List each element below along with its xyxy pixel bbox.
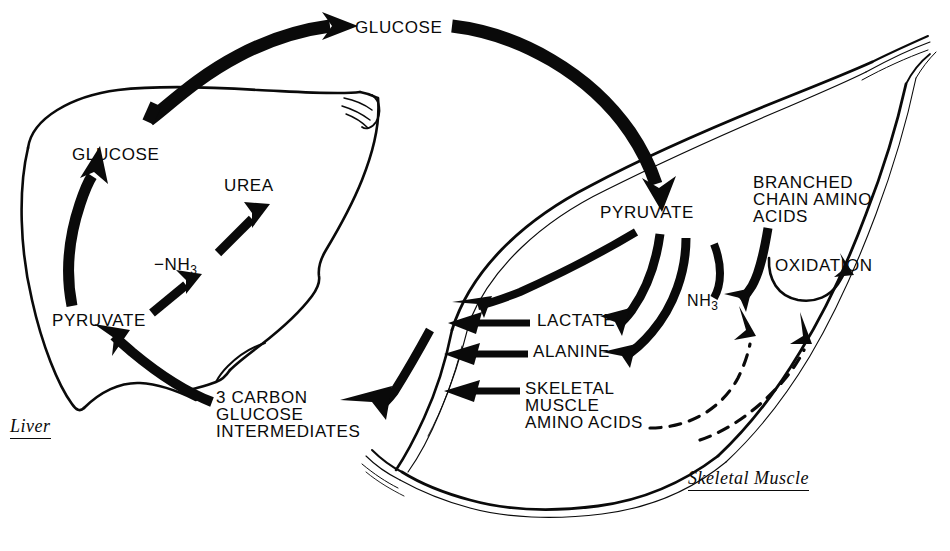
nh3-text: NH [687, 292, 711, 309]
label-liver-glucose: GLUCOSE [72, 146, 159, 164]
arrow-dashed-skeletal-aa-to-oxidation [700, 312, 812, 440]
label-minus-nh3: −NH3 [154, 256, 197, 280]
label-lactate: LACTATE [537, 312, 615, 330]
bcaa-line-3: ACIDS [753, 207, 808, 226]
arrow-liver-pyruvate-to-glucose [69, 146, 108, 306]
organ-label-skeletal-muscle: Skeletal Muscle [688, 468, 809, 491]
label-nh3: NH3 [687, 292, 718, 316]
label-urea: UREA [224, 177, 274, 195]
arrow-minus-nh3-to-urea [218, 202, 270, 253]
metabolic-diagram: GLUCOSE GLUCOSE UREA −NH3 PYRUVATE 3 CAR… [0, 0, 950, 551]
arrow-bcaa-to-nh3 [724, 228, 768, 312]
arrow-export-lactate [448, 312, 530, 334]
nh3-subscript: 3 [711, 299, 718, 313]
arrow-liver-glucose-to-blood [148, 12, 358, 122]
label-branched-chain-amino-acids: BRANCHEDCHAIN AMINOACIDS [753, 174, 872, 225]
minus-nh3-text: −NH [154, 255, 190, 274]
label-liver-pyruvate: PYRUVATE [52, 312, 146, 330]
label-muscle-pyruvate: PYRUVATE [600, 204, 694, 222]
arrow-blood-glucose-to-muscle-pyruvate [452, 26, 676, 212]
label-alanine: ALANINE [533, 343, 610, 361]
minus-nh3-subscript: 3 [190, 263, 197, 277]
label-blood-glucose: GLUCOSE [355, 19, 442, 37]
label-skeletal-muscle-amino-acids: SKELETALMUSCLEAMINO ACIDS [525, 380, 643, 431]
organ-label-liver: Liver [10, 416, 51, 439]
three-carbon-line-3: INTERMEDIATES [216, 422, 360, 441]
arrow-nh3-to-alanine [714, 244, 720, 298]
arrow-three-carbon-to-liver-pyruvate [94, 324, 212, 402]
label-oxidation: OXIDATION [775, 257, 873, 275]
arrow-dashed-skeletal-aa-to-nh3 [650, 306, 756, 428]
arrow-export-skeletal-amino-acids [444, 380, 520, 402]
arrow-muscle-pyruvate-to-alanine [602, 238, 686, 368]
arrow-export-alanine [444, 343, 528, 365]
skeletal-aa-line-3: AMINO ACIDS [525, 413, 643, 432]
label-three-carbon-glucose-intermediates: 3 CARBONGLUCOSEINTERMEDIATES [216, 389, 360, 440]
